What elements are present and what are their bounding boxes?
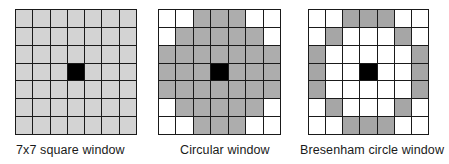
window-cell	[211, 117, 228, 135]
window-cell	[33, 117, 50, 135]
window-cell	[343, 117, 360, 135]
window-cell	[194, 117, 211, 135]
window-cell	[229, 46, 246, 64]
window-cell	[309, 81, 326, 99]
window-cell	[33, 10, 50, 28]
window-cell	[176, 28, 193, 46]
window-cell	[378, 117, 395, 135]
window-cell	[176, 99, 193, 117]
empty-cell	[412, 10, 429, 28]
window-cell	[120, 99, 137, 117]
window-cell	[176, 64, 193, 82]
center-pixel-cell	[211, 64, 228, 82]
window-cell	[194, 10, 211, 28]
empty-cell	[264, 28, 281, 46]
square-window-grid	[15, 9, 137, 135]
window-cell	[68, 46, 85, 64]
window-cell	[395, 28, 412, 46]
circular-window-label: Circular window	[180, 143, 270, 157]
window-cell	[102, 10, 119, 28]
window-cell	[51, 99, 68, 117]
bresenham-window-grid	[308, 9, 429, 135]
empty-cell	[412, 28, 429, 46]
window-cell	[85, 10, 102, 28]
empty-cell	[343, 46, 360, 64]
window-cell	[102, 46, 119, 64]
panel-circular-window	[158, 9, 281, 135]
empty-cell	[326, 64, 343, 82]
window-cell	[211, 81, 228, 99]
empty-cell	[343, 81, 360, 99]
window-cell	[229, 64, 246, 82]
window-cell	[159, 81, 176, 99]
window-cell	[102, 64, 119, 82]
window-cell	[326, 28, 343, 46]
window-cell	[102, 117, 119, 135]
window-cell	[194, 46, 211, 64]
empty-cell	[395, 10, 412, 28]
window-cell	[85, 64, 102, 82]
window-cell	[326, 99, 343, 117]
window-cell	[194, 64, 211, 82]
empty-cell	[360, 81, 377, 99]
window-cell	[309, 64, 326, 82]
window-cell	[16, 28, 33, 46]
bresenham-window-label: Bresenham circle window	[300, 143, 444, 157]
empty-cell	[360, 99, 377, 117]
window-cell	[33, 99, 50, 117]
window-cell	[33, 64, 50, 82]
window-cell	[102, 99, 119, 117]
window-cell	[194, 28, 211, 46]
window-cell	[211, 10, 228, 28]
window-cell	[211, 99, 228, 117]
empty-cell	[309, 10, 326, 28]
empty-cell	[326, 117, 343, 135]
empty-cell	[395, 64, 412, 82]
window-cell	[176, 81, 193, 99]
window-cell	[16, 99, 33, 117]
empty-cell	[378, 28, 395, 46]
window-cell	[33, 28, 50, 46]
window-cell	[412, 46, 429, 64]
empty-cell	[360, 28, 377, 46]
window-cell	[229, 28, 246, 46]
window-cell	[360, 117, 377, 135]
empty-cell	[159, 99, 176, 117]
window-cell	[412, 81, 429, 99]
panel-square-window	[15, 9, 137, 135]
window-cell	[120, 46, 137, 64]
window-cell	[343, 10, 360, 28]
empty-cell	[159, 117, 176, 135]
empty-cell	[378, 64, 395, 82]
window-cell	[412, 64, 429, 82]
empty-cell	[176, 117, 193, 135]
window-cell	[360, 10, 377, 28]
empty-cell	[343, 28, 360, 46]
window-cell	[16, 64, 33, 82]
window-cell	[120, 64, 137, 82]
window-cell	[68, 81, 85, 99]
window-cell	[68, 99, 85, 117]
window-cell	[378, 10, 395, 28]
empty-cell	[264, 99, 281, 117]
window-cell	[102, 28, 119, 46]
empty-cell	[360, 46, 377, 64]
empty-cell	[159, 28, 176, 46]
empty-cell	[246, 117, 263, 135]
window-cell	[176, 46, 193, 64]
empty-cell	[309, 28, 326, 46]
window-cell	[16, 81, 33, 99]
center-pixel-cell	[68, 64, 85, 82]
window-cell	[16, 10, 33, 28]
window-cell	[246, 28, 263, 46]
empty-cell	[378, 81, 395, 99]
window-cell	[229, 99, 246, 117]
window-cell	[309, 46, 326, 64]
window-cell	[194, 99, 211, 117]
window-cell	[229, 117, 246, 135]
window-cell	[85, 46, 102, 64]
window-cell	[51, 117, 68, 135]
window-cell	[229, 10, 246, 28]
empty-cell	[159, 10, 176, 28]
window-cell	[120, 117, 137, 135]
